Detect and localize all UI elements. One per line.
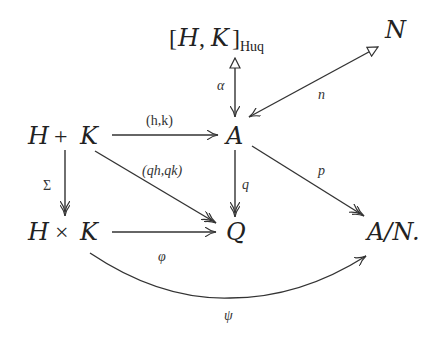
node-n: N bbox=[384, 16, 407, 44]
label-p: p bbox=[317, 163, 325, 178]
hpk-op: + bbox=[54, 123, 68, 149]
bracket-open: [ bbox=[169, 25, 177, 51]
hpk-h: H bbox=[27, 122, 50, 150]
label-hk: (h,k) bbox=[146, 113, 173, 129]
htk-h: H bbox=[27, 218, 50, 246]
node-commutator: [ H , K ] Huq bbox=[169, 24, 264, 54]
arrow-qhqk bbox=[95, 151, 216, 223]
htk-k: K bbox=[79, 218, 100, 246]
label-hk-text: (h,k) bbox=[146, 113, 173, 129]
label-qhqk: (qh,qk) bbox=[142, 163, 182, 179]
hpk-k: K bbox=[79, 122, 100, 150]
arrow-psi bbox=[90, 253, 366, 298]
arrow-p bbox=[252, 146, 364, 216]
commutator-k: K bbox=[210, 24, 231, 52]
htk-op: × bbox=[55, 219, 69, 245]
arrow-n bbox=[249, 47, 378, 117]
label-alpha: α bbox=[217, 78, 225, 93]
label-phi: φ bbox=[158, 249, 166, 264]
bracket-close: ] bbox=[232, 25, 240, 51]
node-a: A bbox=[224, 122, 243, 150]
label-sigma: Σ bbox=[43, 178, 51, 193]
commutative-diagram: [ H , K ] Huq N H + K A H × K Q A/N. α n… bbox=[0, 0, 445, 337]
label-n: n bbox=[318, 87, 325, 102]
node-h-plus-k: H + K bbox=[27, 122, 100, 150]
commutator-h: H bbox=[177, 24, 200, 52]
commutator-subscript: Huq bbox=[240, 39, 264, 54]
node-q: Q bbox=[226, 218, 246, 246]
label-q: q bbox=[242, 177, 249, 192]
node-a-mod-n: A/N. bbox=[365, 218, 420, 246]
node-h-times-k: H × K bbox=[27, 218, 100, 246]
label-psi: ψ bbox=[224, 308, 233, 323]
commutator-comma: , bbox=[199, 25, 205, 51]
